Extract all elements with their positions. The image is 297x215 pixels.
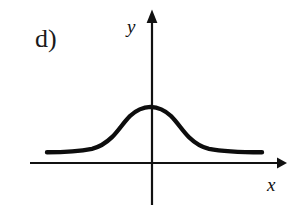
coordinate-plot: d) y x — [0, 0, 297, 215]
figure-panel-d: d) y x — [0, 0, 297, 215]
y-axis-label: y — [125, 16, 136, 37]
x-axis-label: x — [266, 174, 276, 195]
panel-label: d) — [35, 24, 57, 53]
